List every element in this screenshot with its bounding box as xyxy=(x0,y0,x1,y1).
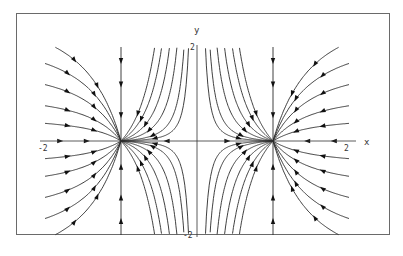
arrow-icon xyxy=(271,218,275,224)
arrow-icon xyxy=(320,170,326,174)
arrow-icon xyxy=(136,110,140,116)
phase-portrait-plot: -2 2 2 -2 x y xyxy=(0,0,403,256)
arrow-icon xyxy=(119,112,123,118)
arrow-icon xyxy=(91,103,96,109)
arrow-icon xyxy=(150,145,156,150)
arrow-icon xyxy=(64,70,70,76)
streamline xyxy=(121,141,177,234)
streamline xyxy=(121,141,169,234)
streamline xyxy=(273,141,339,235)
streamline xyxy=(233,141,274,234)
arrow-icon xyxy=(91,173,96,179)
arrow-icon xyxy=(253,110,257,116)
arrow-icon xyxy=(271,112,275,118)
streamline xyxy=(217,141,273,234)
streamline xyxy=(121,48,169,141)
streamline xyxy=(45,141,121,159)
arrow-icon xyxy=(293,149,299,153)
arrow-icon xyxy=(64,189,70,194)
arrow-icon xyxy=(319,123,325,127)
streamline xyxy=(45,123,121,141)
arrow-icon xyxy=(119,82,123,88)
arrow-icon xyxy=(94,193,98,199)
arrow-icon xyxy=(249,161,253,167)
arrow-icon xyxy=(136,165,140,171)
arrow-icon xyxy=(291,90,295,96)
x-tick-max: 2 xyxy=(344,144,349,153)
streamline xyxy=(273,85,349,141)
arrow-icon xyxy=(271,194,275,200)
y-tick-min: -2 xyxy=(183,231,193,240)
arrow-icon xyxy=(119,164,123,170)
streamline xyxy=(233,48,274,141)
axes: -2 2 2 -2 x y xyxy=(38,25,370,240)
arrow-icon xyxy=(64,207,70,213)
arrow-icon xyxy=(291,186,295,192)
arrow-icon xyxy=(91,127,97,131)
streamline xyxy=(225,48,273,141)
streamline xyxy=(45,85,121,141)
arrow-icon xyxy=(320,204,326,210)
arrow-icon xyxy=(91,116,97,121)
arrow-icon xyxy=(64,107,70,111)
x-tick-min: -2 xyxy=(38,144,48,153)
arrow-icon xyxy=(249,115,253,121)
arrow-icon xyxy=(140,116,144,122)
streamline xyxy=(45,141,121,197)
streamline xyxy=(121,48,177,141)
y-tick-max: 2 xyxy=(190,43,195,52)
arrow-icon xyxy=(271,58,275,64)
arrow-icon xyxy=(64,88,70,93)
streamline xyxy=(273,141,349,159)
arrow-icon xyxy=(320,90,326,95)
arrow-icon xyxy=(91,150,97,154)
arrow-icon xyxy=(64,171,70,175)
x-axis-label: x xyxy=(364,137,370,147)
arrow-icon xyxy=(320,108,326,112)
streamline xyxy=(273,141,349,197)
arrow-icon xyxy=(94,82,98,88)
streamline xyxy=(225,141,273,234)
arrow-icon xyxy=(238,132,244,137)
arrow-icon xyxy=(293,128,299,132)
arrow-icon xyxy=(271,164,275,170)
arrow-icon xyxy=(91,160,97,165)
y-axis-label: y xyxy=(194,25,200,35)
arrow-icon xyxy=(320,72,326,78)
arrow-icon xyxy=(64,123,70,127)
arrow-icon xyxy=(150,132,156,137)
streamline xyxy=(273,47,339,141)
arrow-icon xyxy=(319,154,325,158)
arrow-icon xyxy=(119,58,123,64)
arrow-icon xyxy=(119,218,123,224)
arrow-icon xyxy=(294,118,300,124)
arrow-icon xyxy=(119,194,123,200)
arrow-icon xyxy=(271,82,275,88)
arrow-icon xyxy=(294,158,300,164)
streamline xyxy=(121,48,162,141)
arrow-icon xyxy=(71,220,76,226)
arrow-icon xyxy=(320,187,326,192)
streamline xyxy=(273,123,349,141)
arrow-icon xyxy=(64,155,70,159)
arrow-icon xyxy=(140,160,144,166)
arrow-icon xyxy=(238,145,244,150)
streamline xyxy=(217,48,273,141)
arrow-icon xyxy=(253,165,257,171)
arrow-icon xyxy=(71,56,76,62)
streamline xyxy=(121,141,162,234)
